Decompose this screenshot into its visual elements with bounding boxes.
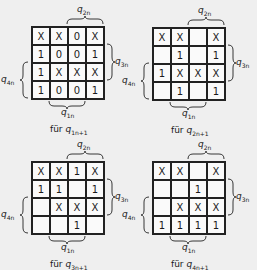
kmap-cell: X	[86, 27, 104, 45]
kmap-cell	[153, 82, 171, 100]
brace-q4n	[22, 62, 28, 98]
brace-q2n	[67, 153, 103, 159]
kmap-cell: X	[153, 28, 171, 46]
kmap-cell	[32, 198, 50, 216]
kmap-cell: 0	[68, 45, 86, 63]
kmap-cell: X	[50, 198, 68, 216]
brace-q3n	[228, 179, 234, 215]
label-q2n: q2n	[198, 139, 211, 151]
map-caption: für q4n+1	[171, 259, 209, 270]
label-q1n: q1n	[182, 242, 195, 254]
kmap-cell: 1	[189, 216, 207, 234]
kmap-cell: X	[86, 63, 104, 81]
brace-q3n	[107, 179, 113, 215]
kmap-cell: 1	[32, 180, 50, 198]
kmap-cell: X	[32, 27, 50, 45]
kmap-cell: 1	[32, 45, 50, 63]
karnaugh-map-q1: q2n XX0X10011XXX1001 q3n q4n q1n für q1n…	[0, 0, 128, 135]
label-q4n: q4n	[122, 75, 135, 87]
kmap-cell: 1	[86, 81, 104, 99]
kmap-cell	[50, 216, 68, 234]
kmap-cell: 1	[153, 216, 171, 234]
kmap-cell: 1	[32, 63, 50, 81]
kmap-cell: 1	[207, 82, 225, 100]
kmap-cell: X	[171, 162, 189, 180]
brace-q4n	[143, 63, 149, 99]
label-q1n: q1n	[61, 107, 74, 119]
kmap-grid: XX1X111XXX1	[31, 161, 105, 235]
kmap-cell: X	[32, 162, 50, 180]
kmap-grid: XXX111XXX11	[152, 27, 226, 101]
kmap-cell: 1	[189, 180, 207, 198]
kmap-cell: 0	[50, 81, 68, 99]
kmap-cell: 0	[68, 81, 86, 99]
brace-q2n	[188, 153, 224, 159]
kmap-cell: X	[207, 64, 225, 82]
kmap-cell	[189, 162, 207, 180]
kmap-cell: 1	[153, 64, 171, 82]
kmap-cell: 1	[171, 82, 189, 100]
kmap-cell: X	[171, 64, 189, 82]
kmap-cell	[153, 180, 171, 198]
kmap-cell: 1	[68, 162, 86, 180]
kmap-cell: X	[207, 198, 225, 216]
kmap-cell	[153, 198, 171, 216]
brace-q2n	[188, 19, 224, 25]
kmap-grid: XXX1XXX1111	[152, 161, 226, 235]
label-q1n: q1n	[61, 242, 74, 254]
karnaugh-map-q2: q2n XXX111XXX11 q3n q4n q1n für q2n+1	[121, 1, 249, 136]
kmap-cell: 1	[171, 46, 189, 64]
kmap-cell: X	[50, 27, 68, 45]
kmap-cell	[153, 46, 171, 64]
label-q4n: q4n	[1, 74, 14, 86]
kmap-cell: X	[153, 162, 171, 180]
brace-q4n	[22, 197, 28, 233]
kmap-cell: X	[86, 198, 104, 216]
kmap-cell	[189, 28, 207, 46]
kmap-cell: 1	[86, 180, 104, 198]
kmap-cell: X	[50, 162, 68, 180]
kmap-cell: 1	[68, 216, 86, 234]
kmap-cell: X	[86, 162, 104, 180]
kmap-cell: 0	[68, 27, 86, 45]
brace-q3n	[107, 44, 113, 80]
map-caption: für q3n+1	[50, 259, 88, 270]
kmap-grid: XX0X10011XXX1001	[31, 26, 105, 100]
kmap-cell: X	[171, 28, 189, 46]
kmap-cell: 1	[207, 46, 225, 64]
label-q1n: q1n	[182, 108, 195, 120]
kmap-cell: X	[189, 198, 207, 216]
kmap-cell: X	[68, 63, 86, 81]
kmap-cell: X	[171, 198, 189, 216]
label-q4n: q4n	[122, 209, 135, 221]
kmap-cell: 1	[207, 216, 225, 234]
kmap-cell: X	[50, 63, 68, 81]
kmap-cell	[32, 216, 50, 234]
kmap-cell: 0	[50, 45, 68, 63]
label-q3n: q3n	[236, 57, 249, 69]
kmap-cell: 1	[50, 180, 68, 198]
kmap-cell: X	[207, 162, 225, 180]
kmap-cell: 1	[86, 45, 104, 63]
brace-q3n	[228, 45, 234, 81]
kmap-cell	[189, 46, 207, 64]
label-q2n: q2n	[77, 4, 90, 16]
kmap-cell: X	[189, 64, 207, 82]
karnaugh-map-q4: q2n XXX1XXX1111 q3n q4n q1n für q4n+1	[121, 135, 249, 270]
label-q3n: q3n	[236, 191, 249, 203]
kmap-cell	[171, 180, 189, 198]
kmap-cell	[68, 180, 86, 198]
kmap-cell: 1	[32, 81, 50, 99]
karnaugh-map-q3: q2n XX1X111XXX1 q3n q4n q1n für q3n+1	[0, 135, 128, 270]
label-q2n: q2n	[77, 139, 90, 151]
kmap-cell: 1	[171, 216, 189, 234]
kmap-cell	[207, 180, 225, 198]
label-q2n: q2n	[198, 5, 211, 17]
kmap-cell	[189, 82, 207, 100]
brace-q2n	[67, 18, 103, 24]
brace-q4n	[143, 197, 149, 233]
label-q4n: q4n	[1, 209, 14, 221]
kmap-cell: X	[68, 198, 86, 216]
kmap-cell	[86, 216, 104, 234]
kmap-cell: X	[207, 28, 225, 46]
